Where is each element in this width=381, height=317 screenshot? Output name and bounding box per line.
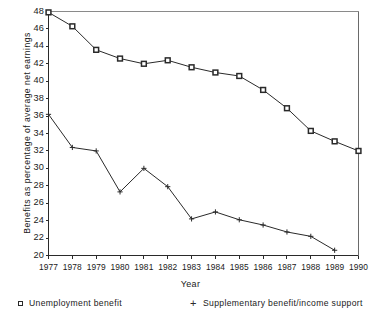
legend-item-supplementary-benefit: + Supplementary benefit/income support [190, 298, 363, 308]
chart-legend: Unemployment benefit + Supplementary ben… [0, 298, 381, 314]
data-point-marker [237, 217, 242, 222]
plus-marker-icon: + [190, 299, 197, 308]
y-axis-tick-label: 46 [22, 23, 44, 33]
data-point-marker [165, 58, 170, 63]
square-marker-icon [18, 301, 23, 306]
y-axis-tick-label: 32 [22, 145, 44, 155]
data-point-marker [46, 10, 51, 15]
series-2 [46, 112, 337, 253]
y-axis-tick-label: 34 [22, 128, 44, 138]
x-axis-title: Year [0, 279, 381, 289]
y-axis-tick-label: 28 [22, 180, 44, 190]
data-point-marker [189, 65, 194, 70]
y-axis-tick-label: 26 [22, 197, 44, 207]
data-point-marker [94, 47, 99, 52]
y-axis-tick-label: 22 [22, 232, 44, 242]
data-series-layer [46, 10, 361, 253]
data-point-marker [284, 229, 289, 234]
y-axis-tick-label: 24 [22, 215, 44, 225]
y-axis-tick-label: 36 [22, 110, 44, 120]
data-point-marker [308, 234, 313, 239]
y-axis-tick-label: 30 [22, 162, 44, 172]
data-point-marker [118, 56, 123, 61]
data-point-marker [261, 222, 266, 227]
data-point-marker [141, 61, 146, 66]
y-axis-tick-label: 48 [22, 6, 44, 16]
data-point-marker [213, 70, 218, 75]
y-axis-tick-label: 44 [22, 40, 44, 50]
legend-item-label: Supplementary benefit/income support [203, 298, 363, 308]
data-point-marker [332, 248, 337, 253]
data-point-marker [213, 209, 218, 214]
data-point-marker [356, 149, 361, 154]
y-axis-tick-label: 42 [22, 58, 44, 68]
data-point-marker [261, 88, 266, 93]
series-1 [46, 10, 361, 153]
data-point-marker [94, 148, 99, 153]
legend-item-unemployment-benefit: Unemployment benefit [18, 298, 122, 308]
data-point-marker [237, 74, 242, 79]
data-point-marker [285, 106, 290, 111]
y-axis-tick-label: 20 [22, 250, 44, 260]
data-point-marker [308, 128, 313, 133]
y-axis-tick-label: 40 [22, 75, 44, 85]
data-point-marker [70, 24, 75, 29]
data-point-marker [332, 139, 337, 144]
legend-item-label: Unemployment benefit [29, 298, 122, 308]
chart-figure: Benefits as percentage of average net ea… [0, 0, 381, 317]
x-axis-tick-label: 1990 [342, 262, 376, 272]
y-axis-tick-label: 38 [22, 93, 44, 103]
